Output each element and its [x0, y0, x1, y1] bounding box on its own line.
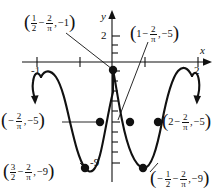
- paren-close: ): [173, 22, 179, 43]
- annotation-minimum-right: (−12−2π,−9): [150, 170, 209, 189]
- minus-sign: −: [172, 173, 180, 184]
- point-maximum-left: [109, 66, 117, 74]
- y-axis-label: y: [101, 10, 106, 22]
- y-value: −9: [37, 166, 48, 177]
- point-midline-descending-left: [96, 118, 104, 126]
- y-value: −5: [194, 116, 205, 127]
- paren-close: ): [205, 110, 211, 131]
- fraction-three-halves: 32: [10, 163, 17, 182]
- annotation-maximum-left: (12−2π,−1): [24, 14, 75, 33]
- fraction-one-half: 12: [31, 14, 38, 33]
- leading-minus-sign: −: [156, 173, 164, 184]
- minus-sign: −: [174, 116, 182, 127]
- paren-close: ): [39, 109, 45, 130]
- y-tick-label-2: 2: [101, 29, 107, 41]
- paren-open: (: [3, 160, 9, 181]
- x-axis: [22, 57, 212, 67]
- point-minimum-left: [81, 164, 89, 172]
- y-value: −5: [27, 115, 38, 126]
- x-axis-label: x: [200, 44, 205, 56]
- graph-figure: x y -1 2 2 -9 (12−2π,−1) (1−2π,−5) (−2π,…: [0, 0, 223, 193]
- fraction-two-over-pi: 2π: [25, 163, 32, 182]
- y-tick-label-neg9: -9: [90, 156, 99, 168]
- fraction-two-over-pi: 2π: [16, 112, 23, 131]
- x-tick-label-neg1: -1: [31, 64, 40, 76]
- point-midline-descending-right: [154, 118, 162, 126]
- fraction-two-over-pi: 2π: [46, 14, 53, 33]
- paren-close: ): [69, 11, 75, 32]
- y-value: −5: [162, 28, 173, 39]
- annotation-midline-ascending: (1−2π,−5): [130, 25, 179, 44]
- x-tick-label-2: 2: [194, 64, 200, 76]
- paren-open: (: [1, 109, 7, 130]
- annotation-midline-descending-left: (−2π,−5): [1, 112, 45, 131]
- paren-open: (: [162, 110, 168, 131]
- annotation-midline-descending-right: (2−2π,−5): [162, 113, 211, 132]
- lead-number: 2: [168, 116, 173, 127]
- paren-open: (: [130, 22, 136, 43]
- minus-sign: −: [38, 17, 46, 28]
- paren-close: ): [48, 160, 54, 181]
- point-minimum-right: [139, 164, 147, 172]
- point-midline-ascending: [126, 118, 134, 126]
- minus-sign: −: [17, 166, 25, 177]
- y-value: −9: [192, 173, 203, 184]
- minus-sign: −: [142, 28, 150, 39]
- fraction-one-half: 12: [165, 170, 172, 189]
- paren-open: (: [24, 11, 30, 32]
- y-value: −1: [58, 17, 69, 28]
- paren-close: ): [203, 167, 209, 188]
- paren-open: (: [150, 167, 156, 188]
- annotation-minimum-left: (32−2π,−9): [3, 163, 54, 182]
- minus-sign: −: [7, 115, 15, 126]
- lead-number: 1: [136, 28, 141, 39]
- fraction-two-over-pi: 2π: [180, 170, 187, 189]
- fraction-two-over-pi: 2π: [182, 113, 189, 132]
- fraction-two-over-pi: 2π: [150, 25, 157, 44]
